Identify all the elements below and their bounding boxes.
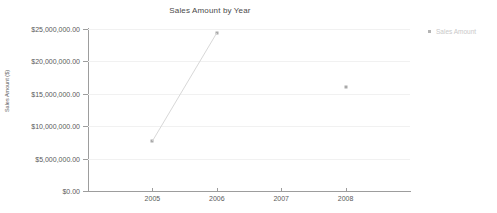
y-tick-mark [83, 159, 88, 160]
y-tick-mark [83, 29, 88, 30]
gridline [88, 29, 410, 30]
x-tick-mark [152, 188, 153, 192]
data-point-marker [344, 85, 347, 88]
chart-container: Sales Amount by Year Sales Amount ($) $0… [0, 0, 497, 213]
y-tick-mark [83, 94, 88, 95]
x-tick-mark [346, 188, 347, 192]
y-tick-mark [83, 126, 88, 127]
y-tick-mark [83, 61, 88, 62]
chart-title: Sales Amount by Year [0, 6, 420, 15]
x-axis-line [88, 191, 411, 192]
y-tick-label: $25,000,000.00 [0, 26, 80, 33]
data-point-marker [151, 140, 154, 143]
x-tick-label: 2007 [273, 195, 289, 202]
plot-area [88, 29, 410, 191]
gridline [88, 126, 410, 127]
gridline [88, 94, 410, 95]
y-tick-label: $15,000,000.00 [0, 90, 80, 97]
x-tick-label: 2008 [338, 195, 354, 202]
data-point-marker [215, 31, 218, 34]
x-tick-label: 2005 [145, 195, 161, 202]
y-tick-label: $10,000,000.00 [0, 123, 80, 130]
x-tick-mark [281, 188, 282, 192]
y-tick-label: $0.00 [0, 188, 80, 195]
chart-legend[interactable]: Sales Amount [428, 28, 476, 35]
legend-item-label: Sales Amount [436, 28, 476, 35]
gridline [88, 159, 410, 160]
y-tick-label: $20,000,000.00 [0, 58, 80, 65]
gridline [88, 61, 410, 62]
legend-square-marker [428, 30, 431, 33]
x-tick-mark [217, 188, 218, 192]
y-tick-label: $5,000,000.00 [0, 155, 80, 162]
x-tick-label: 2006 [209, 195, 225, 202]
y-tick-mark [83, 191, 88, 192]
